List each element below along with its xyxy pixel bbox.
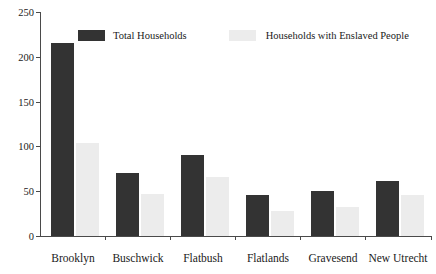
x-tick-sep-5 bbox=[365, 236, 366, 240]
x-label-gravesend: Gravesend bbox=[308, 252, 357, 264]
bar-chart: Total Households Households with Enslave… bbox=[0, 0, 436, 274]
x-tick-sep-4 bbox=[300, 236, 301, 240]
x-tick-sep-2 bbox=[170, 236, 171, 240]
bar-buschwick-households-with-enslaved-people[interactable] bbox=[141, 194, 164, 236]
bar-buschwick-total-households[interactable] bbox=[116, 173, 139, 236]
bar-new-utrecht-households-with-enslaved-people[interactable] bbox=[401, 195, 424, 236]
y-tick-label-150: 150 bbox=[18, 96, 34, 107]
y-tick-label-250: 250 bbox=[18, 7, 34, 18]
x-tick-sep-6 bbox=[431, 236, 432, 240]
x-label-flatbush: Flatbush bbox=[183, 252, 223, 264]
bar-flatbush-total-households[interactable] bbox=[181, 155, 204, 237]
bar-group-flatbush bbox=[170, 12, 235, 236]
x-label-brooklyn: Brooklyn bbox=[51, 252, 94, 264]
x-label-new-utrecht: New Utrecht bbox=[368, 252, 427, 264]
bar-group-brooklyn bbox=[40, 12, 105, 236]
bar-group-gravesend bbox=[300, 12, 365, 236]
y-tick-0: 0 bbox=[40, 236, 44, 237]
x-axis-line bbox=[40, 236, 432, 237]
bar-brooklyn-households-with-enslaved-people[interactable] bbox=[76, 143, 99, 236]
bar-brooklyn-total-households[interactable] bbox=[51, 43, 74, 237]
y-tick-label-50: 50 bbox=[24, 186, 35, 197]
x-label-buschwick: Buschwick bbox=[112, 252, 163, 264]
y-tick-label-200: 200 bbox=[18, 51, 34, 62]
bar-flatbush-households-with-enslaved-people[interactable] bbox=[206, 177, 229, 236]
bar-gravesend-total-households[interactable] bbox=[311, 191, 334, 236]
bar-group-new-utrecht bbox=[365, 12, 431, 236]
bar-flatlands-total-households[interactable] bbox=[246, 195, 269, 236]
y-tick-label-0: 0 bbox=[29, 231, 34, 242]
plot-area: 250 200 150 100 50 0 bbox=[40, 12, 432, 236]
bar-flatlands-households-with-enslaved-people[interactable] bbox=[271, 211, 294, 236]
x-tick-sep-1 bbox=[105, 236, 106, 240]
x-tick-sep-3 bbox=[235, 236, 236, 240]
bar-gravesend-households-with-enslaved-people[interactable] bbox=[336, 207, 359, 236]
bar-new-utrecht-total-households[interactable] bbox=[376, 181, 399, 236]
bar-group-buschwick bbox=[105, 12, 170, 236]
x-label-flatlands: Flatlands bbox=[247, 252, 289, 264]
y-tick-label-100: 100 bbox=[18, 141, 34, 152]
bar-group-flatlands bbox=[235, 12, 300, 236]
